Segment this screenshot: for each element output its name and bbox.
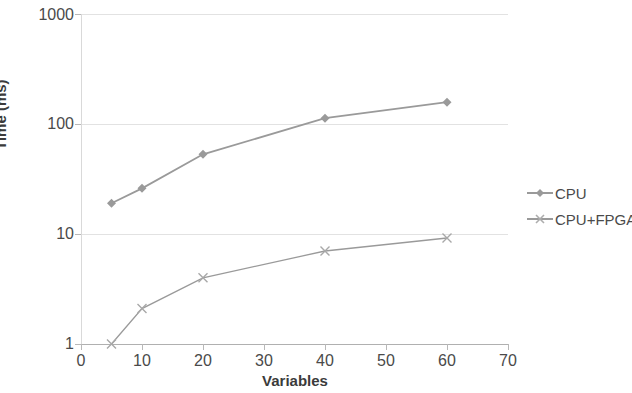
data-point-marker[interactable] — [443, 98, 452, 107]
chart-legend: CPU CPU+FPGA — [527, 180, 632, 232]
data-point-marker[interactable] — [138, 304, 147, 313]
legend-item-cpu-fpga[interactable]: CPU+FPGA — [527, 206, 632, 232]
legend-label-cpu-fpga: CPU+FPGA — [555, 211, 632, 228]
legend-label-cpu: CPU — [555, 185, 587, 202]
legend-marker-diamond-icon — [527, 186, 553, 200]
legend-marker-x-cross-icon — [527, 212, 553, 226]
data-point-marker[interactable] — [107, 199, 116, 208]
data-point-marker[interactable] — [321, 114, 330, 123]
chart-container: Time (ms) 1000 100 10 1 0 10 20 30 40 50… — [0, 0, 632, 393]
legend-item-cpu[interactable]: CPU — [527, 180, 632, 206]
data-point-marker[interactable] — [199, 150, 208, 159]
series-line-cpu-fpga — [112, 238, 448, 344]
data-point-marker[interactable] — [138, 184, 147, 193]
data-point-marker[interactable] — [107, 340, 116, 349]
series-line-cpu — [112, 102, 448, 203]
